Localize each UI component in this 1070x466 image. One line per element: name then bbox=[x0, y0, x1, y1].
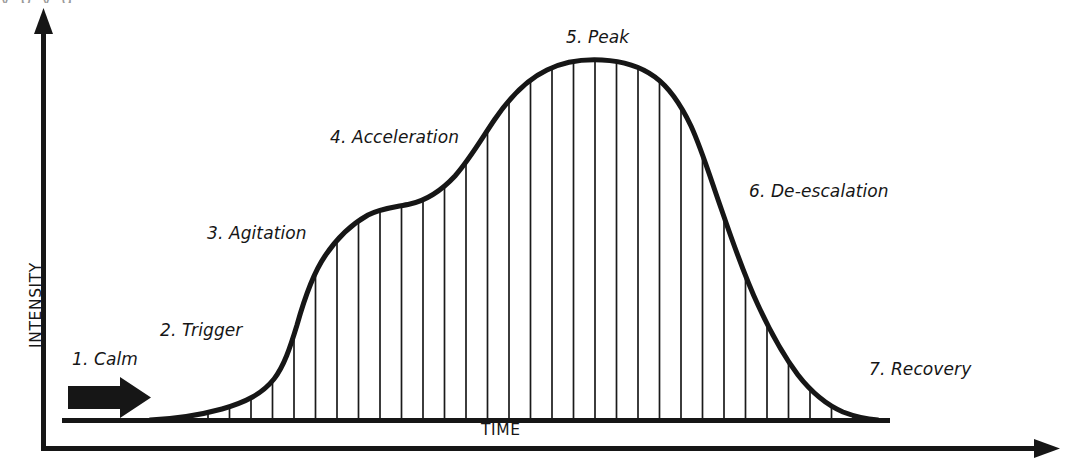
stage-label-agitation: 3. Agitation bbox=[207, 223, 307, 243]
figure-canvas: y p y g bbox=[0, 0, 1070, 466]
stage-label-deescalation: 6. De-escalation bbox=[749, 181, 889, 201]
stage-label-recovery: 7. Recovery bbox=[869, 359, 971, 379]
stage-label-acceleration: 4. Acceleration bbox=[330, 127, 459, 147]
y-axis-label: INTENSITY bbox=[27, 245, 45, 365]
stage-label-peak: 5. Peak bbox=[566, 27, 629, 47]
x-axis-arrowhead bbox=[1034, 439, 1060, 458]
x-axis-label: TIME bbox=[481, 421, 521, 439]
stage-label-trigger: 2. Trigger bbox=[160, 320, 242, 340]
y-axis-arrowhead bbox=[34, 8, 53, 34]
calm-block-arrow-icon bbox=[68, 377, 151, 418]
stage-label-calm: 1. Calm bbox=[72, 349, 138, 369]
escalation-curve-diagram bbox=[0, 0, 1070, 466]
